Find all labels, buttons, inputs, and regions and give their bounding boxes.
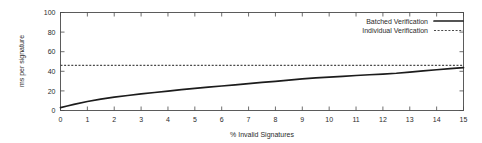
x-tick-label: 11 [352, 116, 359, 123]
y-tick-label: 40 [48, 68, 56, 75]
x-tick-label: 10 [325, 116, 333, 123]
y-axis-title: ms per signature [18, 35, 26, 87]
x-tick-label: 5 [193, 116, 197, 123]
x-tick-label: 0 [59, 116, 63, 123]
x-tick-label: 13 [406, 116, 414, 123]
legend-label-individual-verification: Individual Verification [362, 27, 428, 34]
y-tick-label: 0 [52, 107, 56, 114]
x-tick-label: 12 [379, 116, 387, 123]
x-tick-label: 6 [220, 116, 224, 123]
x-tick-label: 1 [85, 116, 89, 123]
legend-label-batched-verification: Batched Verification [366, 18, 428, 25]
x-tick-label: 8 [273, 116, 277, 123]
y-tick-label: 20 [48, 88, 56, 95]
x-tick-label: 3 [139, 116, 143, 123]
x-axis-title: % Invalid Signatures [230, 131, 294, 139]
x-tick-label: 15 [460, 116, 468, 123]
x-tick-label: 4 [166, 116, 170, 123]
x-tick-label: 7 [247, 116, 251, 123]
chart-figure: 020406080100 0123456789101112131415 % In… [0, 0, 482, 143]
y-tick-label: 80 [48, 29, 56, 36]
y-tick-label: 60 [48, 48, 56, 55]
line-chart: 020406080100 0123456789101112131415 % In… [0, 0, 482, 143]
x-tick-label: 2 [112, 116, 116, 123]
x-tick-label: 14 [433, 116, 441, 123]
y-tick-label: 100 [44, 9, 56, 16]
x-tick-label: 9 [300, 116, 304, 123]
